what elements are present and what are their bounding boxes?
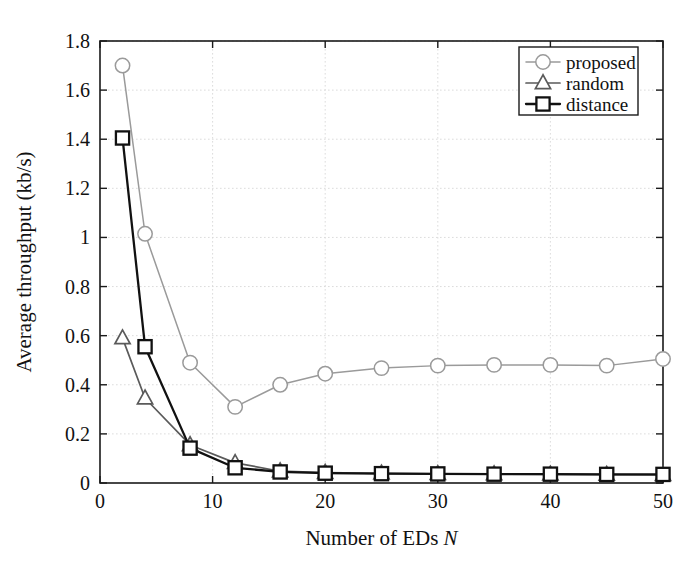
- y-tick-label: 0.4: [65, 374, 90, 396]
- x-tick-label: 50: [653, 490, 673, 512]
- legend-marker-square: [536, 97, 549, 110]
- data-point: [137, 390, 152, 404]
- y-tick-label: 1.6: [65, 79, 90, 101]
- chart-figure: 01020304050 00.20.40.60.811.21.41.61.8 N…: [0, 0, 700, 565]
- data-point: [228, 400, 242, 414]
- x-tick-label: 0: [95, 490, 105, 512]
- legend-label: random: [566, 73, 624, 94]
- legend-label: distance: [566, 94, 628, 115]
- data-point: [138, 340, 151, 353]
- data-point: [273, 378, 287, 392]
- data-point: [375, 467, 388, 480]
- data-point: [374, 361, 388, 375]
- data-point: [319, 467, 332, 480]
- y-tick-labels: 00.20.40.60.811.21.41.61.8: [65, 30, 90, 494]
- y-tick-label: 1.4: [65, 128, 90, 150]
- y-tick-label: 0: [80, 472, 90, 494]
- x-tick-label: 20: [315, 490, 335, 512]
- data-point: [115, 330, 130, 344]
- data-point: [138, 227, 152, 241]
- y-axis-title: Average throughput (kb/s): [12, 151, 36, 372]
- data-point: [600, 358, 614, 372]
- y-tick-label: 1.8: [65, 30, 90, 52]
- data-point: [656, 352, 670, 366]
- legend: proposedrandomdistance: [519, 47, 638, 115]
- data-point: [656, 468, 669, 481]
- y-tick-label: 0.2: [65, 423, 90, 445]
- y-tick-label: 0.8: [65, 276, 90, 298]
- x-tick-label: 30: [428, 490, 448, 512]
- x-tick-label: 10: [203, 490, 223, 512]
- data-point: [543, 358, 557, 372]
- data-point: [431, 358, 445, 372]
- data-series-layer: [115, 58, 671, 481]
- data-point: [487, 358, 501, 372]
- data-point: [116, 131, 129, 144]
- data-point: [488, 468, 501, 481]
- y-tick-label: 1.2: [65, 177, 90, 199]
- chart-canvas: 01020304050 00.20.40.60.811.21.41.61.8 N…: [0, 0, 700, 565]
- series-random: [115, 330, 671, 481]
- legend-marker-circle: [536, 55, 550, 69]
- x-tick-label: 40: [540, 490, 560, 512]
- data-point: [318, 367, 332, 381]
- legend-label: proposed: [566, 52, 636, 73]
- data-point: [431, 467, 444, 480]
- x-tick-labels: 01020304050: [95, 490, 673, 512]
- data-point: [600, 468, 613, 481]
- data-point: [183, 355, 197, 369]
- data-point: [115, 58, 129, 72]
- data-point: [183, 442, 196, 455]
- series-distance: [116, 131, 670, 481]
- legend-item-distance[interactable]: distance: [526, 94, 628, 115]
- legend-item-proposed[interactable]: proposed: [526, 52, 636, 73]
- x-axis-title: Number of EDs N: [305, 526, 458, 550]
- y-tick-label: 0.6: [65, 325, 90, 347]
- data-point: [229, 461, 242, 474]
- y-tick-label: 1: [80, 226, 90, 248]
- data-point: [274, 465, 287, 478]
- data-point: [544, 468, 557, 481]
